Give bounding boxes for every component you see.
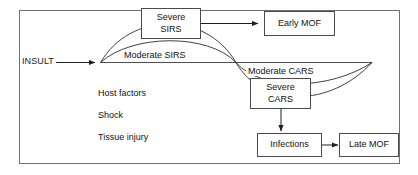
label-moderate-cars: Moderate CARS <box>246 66 316 76</box>
box-severe-sirs-line2: SIRS <box>160 24 181 35</box>
factor-shock: Shock <box>98 110 123 120</box>
box-severe-cars-line1: Severe <box>266 82 295 93</box>
box-late-mof-line1: Late MOF <box>349 139 389 150</box>
figure-canvas: INSULT Severe SIRS Early MOF Moderate SI… <box>0 0 418 175</box>
box-late-mof[interactable]: Late MOF <box>339 133 399 157</box>
box-early-mof[interactable]: Early MOF <box>264 11 335 36</box>
insult-label: INSULT <box>22 57 54 66</box>
factor-host-factors: Host factors <box>98 88 146 98</box>
box-infections-line1: Infections <box>270 139 309 150</box>
box-severe-cars-line2: CARS <box>268 94 293 105</box>
box-severe-cars[interactable]: Severe CARS <box>250 78 311 109</box>
box-infections[interactable]: Infections <box>257 133 322 157</box>
label-moderate-sirs: Moderate SIRS <box>122 50 188 60</box>
factor-tissue-injury: Tissue injury <box>98 132 148 142</box>
box-severe-sirs[interactable]: Severe SIRS <box>141 8 201 39</box>
box-early-mof-line1: Early MOF <box>278 18 321 29</box>
box-severe-sirs-line1: Severe <box>157 12 186 23</box>
